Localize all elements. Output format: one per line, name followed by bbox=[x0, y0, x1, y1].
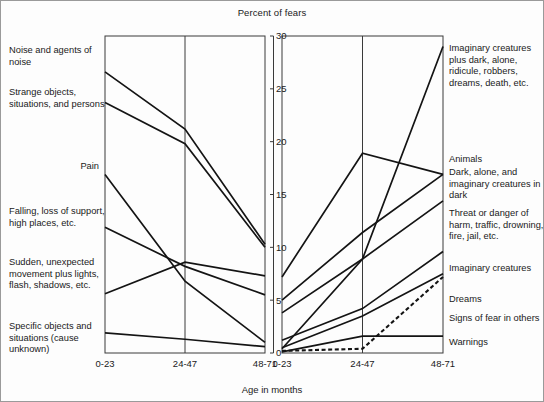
y-axis-tick-label: 30 bbox=[276, 30, 287, 41]
figure-container: Percent of fears 0510152025300-2324-4748… bbox=[0, 0, 544, 402]
x-axis-tick-label: 0-23 bbox=[95, 358, 114, 369]
y-axis-tick-label: 15 bbox=[276, 189, 287, 200]
series-label: Signs of fear in others bbox=[449, 313, 544, 325]
x-axis-tick-label: 24-47 bbox=[173, 358, 197, 369]
x-axis-tick-label: 48-71 bbox=[431, 358, 455, 369]
series-label: Animals bbox=[449, 154, 544, 166]
series-label: Noise and agents of noise bbox=[9, 45, 105, 68]
y-axis-tick-label: 10 bbox=[276, 242, 287, 253]
series-label: Dark, alone, and imaginary creatures in … bbox=[449, 167, 544, 202]
y-axis-tick-label: 5 bbox=[276, 295, 281, 306]
series-label: Imaginary creatures plus dark, alone, ri… bbox=[449, 43, 544, 89]
series-label: Dreams bbox=[449, 294, 544, 306]
series-label: Strange objects, situations, and persons bbox=[9, 87, 105, 110]
series-label: Imaginary creatures bbox=[449, 263, 544, 275]
x-axis-tick-label: 24-47 bbox=[350, 358, 374, 369]
series-label: Pain bbox=[11, 161, 99, 173]
series-label: Falling, loss of support, high places, e… bbox=[9, 206, 105, 229]
x-axis-tick-label: 0-23 bbox=[272, 358, 291, 369]
y-axis-tick-label: 0 bbox=[276, 347, 281, 358]
x-axis-title: Age in months bbox=[1, 384, 543, 395]
y-axis-tick-label: 20 bbox=[276, 136, 287, 147]
series-label: Threat or danger of harm, traffic, drown… bbox=[449, 208, 544, 243]
series-label: Sudden, unexpected movement plus lights,… bbox=[9, 257, 105, 292]
series-label: Warnings bbox=[449, 337, 544, 349]
series-label: Specific objects and situations (cause u… bbox=[9, 321, 105, 356]
y-axis-tick-label: 25 bbox=[276, 83, 287, 94]
